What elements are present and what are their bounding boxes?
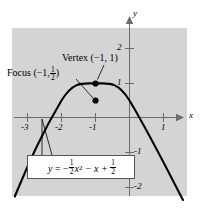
vertex-point [92,80,98,86]
focus-leader-line [76,79,93,98]
equation-term2: − x + [85,163,108,174]
y-tick-label-neg1: -1 [134,146,142,156]
equation-term3-fraction: 12 [110,159,116,175]
y-tick-label-neg2: -2 [134,181,142,191]
y-tick-label-2: 2 [117,42,122,52]
equation-term3-denominator: 2 [110,168,116,176]
x-axis-label: x [189,110,193,120]
focus-label: Focus (−1,12) [7,66,59,82]
equation-term1-exponent: 2 [79,164,83,172]
x-tick-label-neg3: -3 [21,122,29,132]
x-tick-label-neg2: -2 [55,122,63,132]
focus-label-prefix: Focus (−1, [7,67,50,78]
focus-frac-denominator: 2 [50,74,56,82]
equation-box: y = −12x2 − x + 12 [27,155,135,179]
focus-point [92,97,98,103]
vertex-leader-line [98,65,105,80]
equation-term1-denominator: 2 [69,168,75,176]
vertex-label: Vertex (−1, 1) [62,52,118,63]
parabola-curve [15,83,183,200]
equation-equals: = [55,163,61,174]
parabola-figure: -3 -2 -1 1 2 1 -1 -2 x y Vertex (−1, 1) … [0,0,207,210]
x-tick-label-1: 1 [161,122,166,132]
y-tick-label-1: 1 [117,77,122,87]
equation-term1-fraction: 12 [69,159,75,175]
focus-fraction: 12 [50,66,56,82]
equation-lhs: y [48,163,52,174]
equation-text: y = −12x2 − x + 12 [28,156,136,180]
y-axis-label: y [133,8,137,18]
x-tick-label-neg1: -1 [89,122,97,132]
x-axis [14,114,184,121]
focus-label-suffix: ) [56,67,59,78]
